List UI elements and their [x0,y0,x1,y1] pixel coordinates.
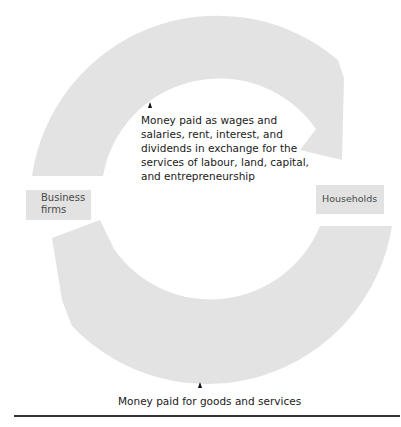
arrowhead-icon [148,102,152,108]
arrowhead-icon [198,382,202,388]
bottom-flow-arc [52,220,392,384]
business-firms-node: Business firms [26,190,91,220]
households-label: Households [322,193,377,204]
business-firms-label-line2: firms [41,204,91,216]
bottom-flow-caption: Money paid for goods and services [118,394,301,408]
business-firms-label-line1: Business [41,192,91,204]
horizontal-rule [14,415,400,417]
households-node: Households [316,185,384,214]
top-flow-caption: Money paid as wages and salaries, rent, … [141,113,311,183]
